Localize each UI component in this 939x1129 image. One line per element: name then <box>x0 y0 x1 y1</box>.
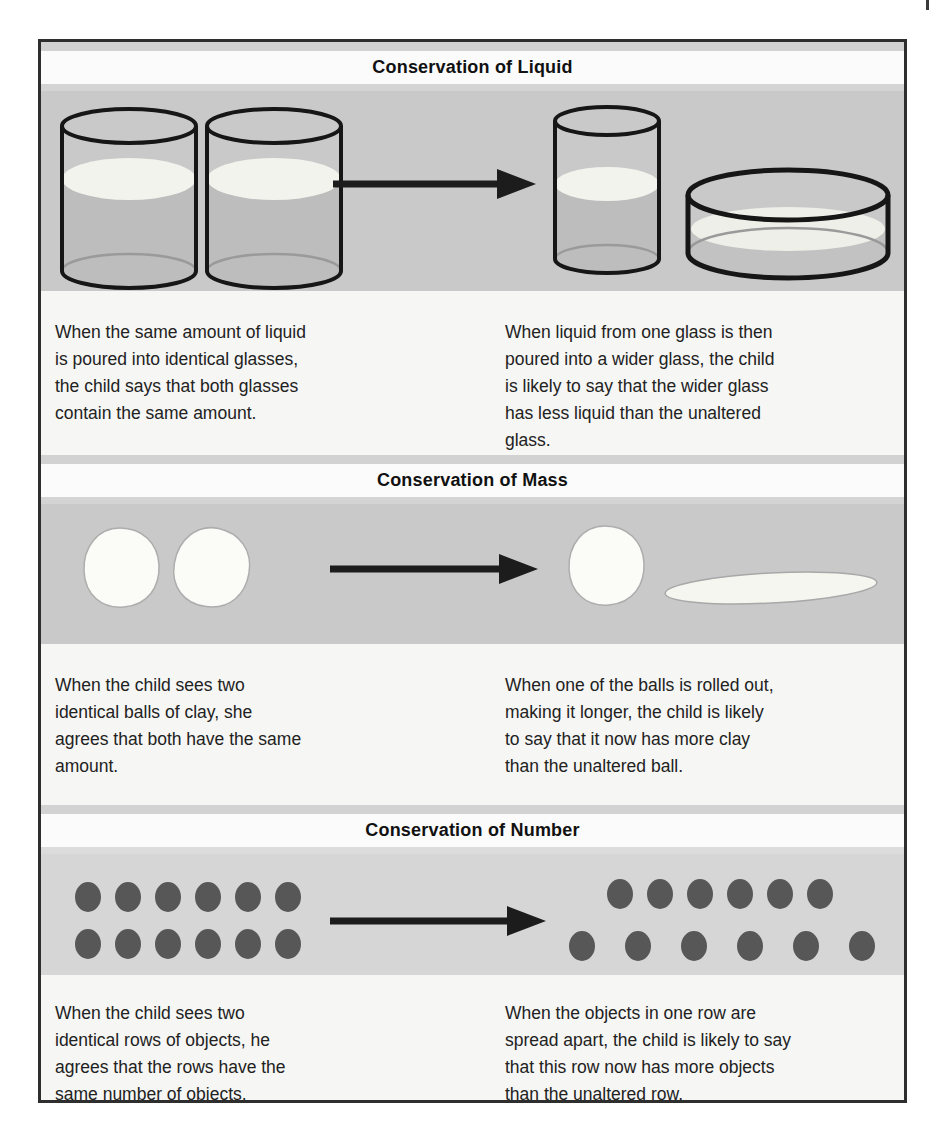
liquid-illustration <box>41 84 904 291</box>
mass-illustration <box>41 497 904 644</box>
divider-strip <box>41 42 904 51</box>
mass-title-band: Conservation of Mass <box>41 464 904 497</box>
liquid-captions: When the same amount of liquid is poured… <box>41 291 904 455</box>
panel-title: Conservation of Liquid <box>372 57 572 78</box>
arrow-icon <box>333 169 536 199</box>
mass-caption-before: When the child sees two identical balls … <box>55 672 307 780</box>
dot-row-before-bottom <box>75 929 301 959</box>
number-caption-after: When the objects in one row are spread a… <box>505 1000 807 1104</box>
number-title-band: Conservation of Number <box>41 814 904 847</box>
scan-mark <box>926 0 929 10</box>
wide-glass-icon <box>688 170 888 278</box>
panel-liquid: Conservation of Liquid <box>41 42 904 455</box>
divider-strip <box>41 455 904 464</box>
liquid-title-band: Conservation of Liquid <box>41 51 904 84</box>
clay-ball-icon <box>84 528 159 607</box>
panel-title: Conservation of Mass <box>377 470 568 491</box>
mass-illustration-svg <box>41 497 904 644</box>
mass-captions: When the child sees two identical balls … <box>41 644 904 805</box>
panel-title: Conservation of Number <box>365 820 579 841</box>
clay-ball-icon <box>569 526 644 605</box>
arrow-icon <box>330 906 546 936</box>
dot-row-before-top <box>75 882 301 912</box>
liquid-illustration-svg <box>41 84 904 291</box>
dot-row-after-bottom-spread <box>569 931 875 961</box>
mass-caption-after: When one of the balls is rolled out, mak… <box>505 672 781 780</box>
number-caption-before: When the child sees two identical rows o… <box>55 1000 307 1104</box>
clay-ball-icon <box>167 521 257 614</box>
arrow-icon <box>330 554 538 584</box>
dot-row-after-top <box>607 879 833 909</box>
conservation-figure: Conservation of Liquid <box>38 39 907 1103</box>
panel-number: Conservation of Number <box>41 805 904 1100</box>
divider-strip <box>41 805 904 814</box>
tall-glass-icon <box>555 107 659 273</box>
number-captions: When the child sees two identical rows o… <box>41 975 904 1100</box>
rolled-clay-icon <box>664 567 877 608</box>
panel-mass: Conservation of Mass <box>41 455 904 805</box>
tall-glass-icon <box>62 109 196 288</box>
number-illustration <box>41 847 904 975</box>
liquid-caption-after: When liquid from one glass is then poure… <box>505 319 781 454</box>
liquid-caption-before: When the same amount of liquid is poured… <box>55 319 307 427</box>
tall-glass-icon <box>207 109 341 288</box>
number-illustration-svg <box>41 847 904 975</box>
